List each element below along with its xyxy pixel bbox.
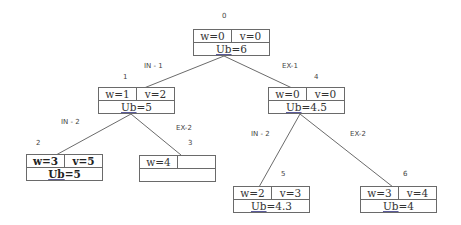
edge-4-5 [259, 114, 300, 187]
ub-value: =4.3 [267, 200, 293, 212]
node-upper-bound: Ub=4.5 [269, 101, 344, 114]
edge-label-0-4: EX-1 [282, 62, 298, 70]
node-upper-bound: Ub=5 [27, 168, 102, 181]
ub-label: Ub [48, 168, 65, 180]
node-upper-bound [140, 169, 215, 182]
edge-1-3 [131, 114, 181, 155]
edge-0-1 [144, 56, 224, 88]
node-upper-bound: Ub=4 [361, 200, 436, 213]
node-number-4: 4 [314, 73, 318, 81]
ub-value: =4.5 [302, 101, 328, 113]
node-weight: w=1 [99, 88, 137, 100]
node-value: v=4 [399, 187, 436, 199]
tree-node-2-optimal: w=3 v=5 Ub=5 [26, 154, 103, 181]
ub-label: Ub [383, 200, 399, 212]
node-value: v=2 [137, 88, 174, 100]
edge-label-0-1: IN - 1 [144, 62, 163, 70]
node-number-0: 0 [222, 12, 226, 20]
ub-label: Ub [121, 101, 137, 113]
node-weight: w=0 [194, 30, 232, 42]
edge-label-4-5: IN - 2 [251, 130, 270, 138]
edge-label-1-3: EX-2 [176, 124, 192, 132]
tree-node-3-infeasible: w=4 [139, 155, 216, 182]
ub-value: =5 [65, 168, 81, 180]
node-value: v=5 [65, 155, 102, 167]
node-weight: w=4 [140, 156, 178, 168]
tree-node-0: w=0 v=0 Ub=6 [193, 29, 270, 56]
node-value: v=0 [232, 30, 269, 42]
ub-label: Ub [286, 101, 302, 113]
ub-label: Ub [216, 43, 232, 55]
tree-node-1: w=1 v=2 Ub=5 [98, 87, 175, 114]
node-number-2: 2 [36, 139, 40, 147]
node-number-1: 1 [123, 73, 127, 81]
edge-label-1-2: IN - 2 [61, 118, 80, 126]
edge-label-4-6: EX-2 [350, 130, 366, 138]
node-number-5: 5 [281, 170, 285, 178]
node-value [178, 156, 215, 168]
tree-node-4: w=0 v=0 Ub=4.5 [268, 87, 345, 114]
branch-and-bound-tree: IN - 1 EX-1 IN - 2 EX-2 IN - 2 EX-2 0 1 … [0, 0, 461, 225]
ub-value: =4 [399, 200, 414, 212]
node-value: v=0 [307, 88, 344, 100]
node-value: v=3 [272, 187, 309, 199]
ub-value: =6 [232, 43, 247, 55]
node-upper-bound: Ub=5 [99, 101, 174, 114]
tree-node-6: w=3 v=4 Ub=4 [360, 186, 437, 213]
node-weight: w=2 [234, 187, 272, 199]
node-number-3: 3 [188, 139, 192, 147]
node-weight: w=3 [361, 187, 399, 199]
edge-4-6 [300, 114, 393, 187]
edge-0-4 [224, 56, 292, 88]
ub-label: Ub [251, 200, 267, 212]
node-weight: w=0 [269, 88, 307, 100]
node-upper-bound: Ub=4.3 [234, 200, 309, 213]
ub-value: =5 [137, 101, 152, 113]
node-upper-bound: Ub=6 [194, 43, 269, 56]
node-weight: w=3 [27, 155, 65, 167]
node-number-6: 6 [403, 170, 407, 178]
tree-node-5: w=2 v=3 Ub=4.3 [233, 186, 310, 213]
